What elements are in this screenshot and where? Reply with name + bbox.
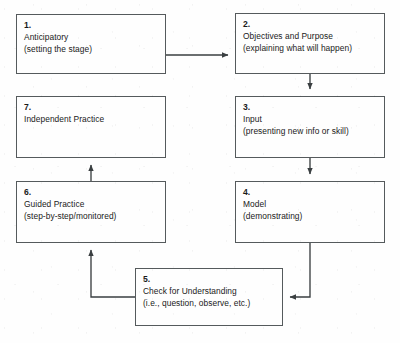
flow-node-4-number: 4. xyxy=(243,187,384,199)
flow-node-7-number: 7. xyxy=(24,102,165,114)
flow-node-4[interactable]: 4. Model (demonstrating) xyxy=(235,181,385,243)
flow-node-2-heading: Objectives and Purpose xyxy=(243,31,384,42)
flow-node-1[interactable]: 1. Anticipatory (setting the stage) xyxy=(16,14,166,74)
flow-node-6-number: 6. xyxy=(24,187,165,199)
flow-node-3-number: 3. xyxy=(243,102,384,114)
flow-node-1-detail: (setting the stage) xyxy=(24,44,165,55)
flow-node-2-detail: (explaining what will happen) xyxy=(243,43,384,54)
flow-node-5[interactable]: 5. Check for Understanding (i.e., questi… xyxy=(135,268,283,326)
flow-node-3-detail: (presenting new info or skill) xyxy=(243,126,384,137)
flow-node-4-heading: Model xyxy=(243,199,384,210)
flow-node-6-detail: (step-by-step/monitored) xyxy=(24,211,165,222)
flow-node-1-heading: Anticipatory xyxy=(24,32,165,43)
flow-node-4-detail: (demonstrating) xyxy=(243,211,384,222)
flow-node-1-number: 1. xyxy=(24,20,165,32)
flow-node-5-number: 5. xyxy=(143,274,282,286)
flow-node-6-heading: Guided Practice xyxy=(24,199,165,210)
flowchart-canvas: 1. Anticipatory (setting the stage) 2. O… xyxy=(0,0,400,343)
flow-node-3[interactable]: 3. Input (presenting new info or skill) xyxy=(235,96,385,158)
edge-4-to-5 xyxy=(290,243,310,297)
edge-5-to-6 xyxy=(91,250,135,297)
flow-node-7-heading: Independent Practice xyxy=(24,114,165,125)
flow-node-5-detail: (i.e., question, observe, etc.) xyxy=(143,298,282,309)
flow-node-7[interactable]: 7. Independent Practice xyxy=(16,96,166,158)
flow-node-3-heading: Input xyxy=(243,114,384,125)
flow-node-2-number: 2. xyxy=(243,19,384,31)
flow-node-5-heading: Check for Understanding xyxy=(143,286,282,297)
flow-node-2[interactable]: 2. Objectives and Purpose (explaining wh… xyxy=(235,13,385,74)
flow-node-6[interactable]: 6. Guided Practice (step-by-step/monitor… xyxy=(16,181,166,243)
